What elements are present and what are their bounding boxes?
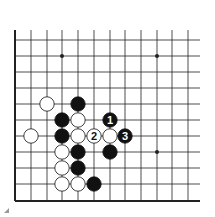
black-stone [55,113,69,127]
white-stone [103,129,117,143]
white-stone [55,145,69,159]
black-stone [71,145,85,159]
black-stone [71,97,85,111]
move-number-label: 2 [91,130,97,142]
go-board: 123 [0,0,215,217]
star-point-icon [155,150,159,154]
white-stone [24,129,38,143]
move-number-label: 3 [122,130,128,142]
white-stone [55,177,69,191]
black-stone [87,177,101,191]
white-stone [71,113,85,127]
white-stone [55,161,69,175]
move-number-label: 1 [107,114,113,126]
black-stone [71,161,85,175]
star-point-icon [60,54,64,58]
black-stone [55,129,69,143]
white-stone [71,129,85,143]
star-point-icon [155,54,159,58]
white-stone [71,177,85,191]
white-stone [40,97,54,111]
black-stone [103,145,117,159]
corner-mark-icon [4,208,9,213]
